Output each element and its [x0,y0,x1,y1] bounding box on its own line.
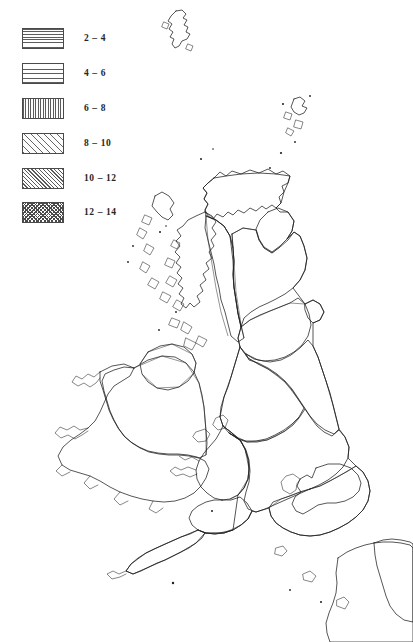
region-north-east-england [246,340,339,434]
region-cornwall [107,530,205,579]
region-north-west-england [220,347,304,441]
channel-islands [275,546,349,609]
great-britain-outline [126,173,370,574]
region-outer-hebrides [127,192,174,289]
island-anglesey [193,429,210,442]
region-northern-ireland [140,344,196,390]
region-central-scotland [205,216,244,342]
region-southern-uplands [238,298,324,361]
region-eastern-scotland [232,228,307,327]
region-orkney-islands [282,95,311,136]
region-london-basin [281,464,361,514]
figure-canvas: 2 – 4 4 – 6 6 – 8 8 – 10 10 – 12 12 – 14 [0,0,413,642]
region-south-east-england [269,466,370,536]
region-shetland-islands [162,10,193,51]
region-grampian [256,208,294,252]
region-northern-france-coast [326,542,413,642]
small-islands [158,141,322,603]
map-figure [0,0,413,642]
map-svg [0,0,413,642]
region-low-countries-coast [374,539,413,622]
region-northern-highlands [203,169,290,219]
region-south-west-england [189,497,252,534]
